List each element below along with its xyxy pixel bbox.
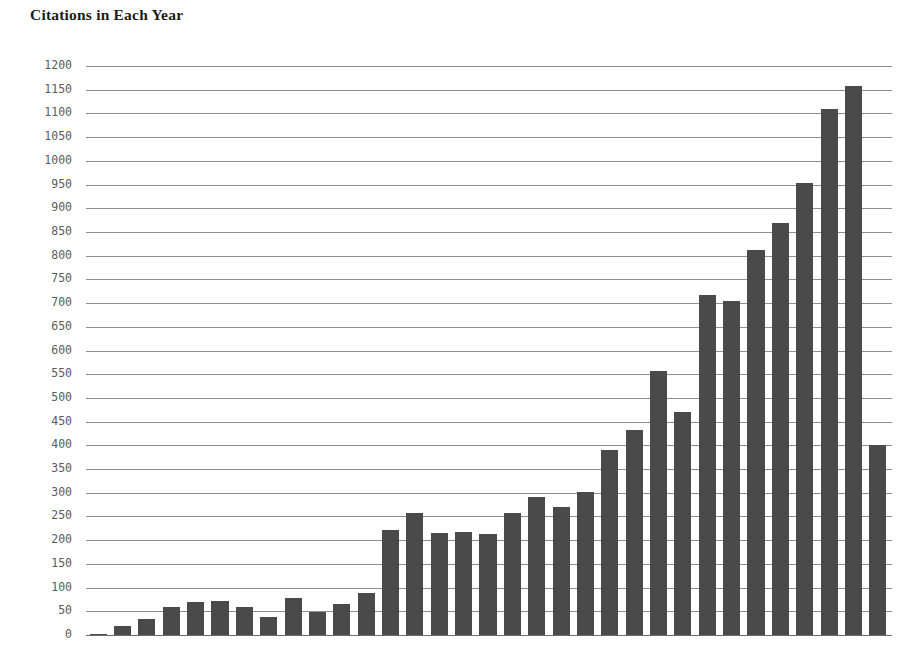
bar[interactable] [626, 430, 643, 635]
bar[interactable] [114, 626, 131, 635]
bar[interactable] [747, 250, 764, 635]
plot-area: 1200115011001050100095090085080075070065… [0, 0, 915, 649]
bar[interactable] [236, 607, 253, 635]
chart-page: Citations in Each Year 12001150110010501… [0, 0, 915, 649]
bar[interactable] [601, 450, 618, 635]
bar[interactable] [382, 530, 399, 635]
bar[interactable] [358, 593, 375, 635]
bar[interactable] [723, 301, 740, 635]
bar[interactable] [211, 601, 228, 635]
bar[interactable] [845, 86, 862, 635]
bar[interactable] [553, 507, 570, 635]
bar[interactable] [138, 619, 155, 635]
bar[interactable] [479, 534, 496, 635]
bar[interactable] [796, 183, 813, 635]
bar[interactable] [772, 223, 789, 635]
bar[interactable] [163, 607, 180, 635]
bar[interactable] [821, 109, 838, 635]
bar[interactable] [260, 617, 277, 635]
bar[interactable] [650, 371, 667, 635]
bar-series [0, 0, 915, 649]
bar[interactable] [674, 412, 691, 635]
bar[interactable] [406, 513, 423, 635]
bar[interactable] [504, 513, 521, 635]
bar[interactable] [431, 533, 448, 635]
bar[interactable] [869, 445, 886, 635]
bar[interactable] [699, 295, 716, 635]
bar[interactable] [90, 634, 107, 636]
bar[interactable] [285, 598, 302, 635]
bar[interactable] [528, 497, 545, 635]
bar[interactable] [187, 602, 204, 635]
bar[interactable] [577, 492, 594, 635]
bar[interactable] [309, 612, 326, 635]
bar[interactable] [333, 604, 350, 635]
bar[interactable] [455, 532, 472, 635]
